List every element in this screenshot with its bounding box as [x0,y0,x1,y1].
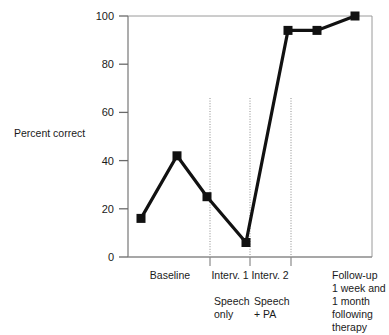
data-point-1 [137,214,146,223]
phase-dividers [210,98,291,256]
data-point-6 [313,26,322,35]
y-tick-label-20: 20 [102,203,114,215]
followup-sub-line1: 1 week and [332,282,386,294]
y-tick-label-0: 0 [108,251,114,263]
followup-sub-line2: 1 month [332,295,370,307]
interv1-sub-line1: Speech [214,295,250,307]
interv2-sub-line1: Speech [254,295,290,307]
data-point-7 [351,12,360,21]
y-axis-ticks [119,16,128,257]
phase-label-followup: Follow-up [332,269,378,281]
data-point-markers [137,12,360,248]
x-axis-ticks [210,257,291,266]
data-line [141,16,355,243]
y-tick-label-60: 60 [102,106,114,118]
y-tick-label-40: 40 [102,155,114,167]
y-axis-title: Percent correct [14,127,85,139]
followup-sub-line4: therapy [332,321,368,333]
data-point-2 [173,151,182,160]
phase-label-interv2: Interv. 2 [251,269,288,281]
line-chart-svg: 100 80 60 40 20 0 Percent correct [0,0,389,335]
followup-sub-line3: following [332,308,373,320]
y-tick-label-80: 80 [102,58,114,70]
y-tick-label-100: 100 [96,10,114,22]
data-point-5 [284,26,293,35]
interv1-sub-line2: only [214,308,234,320]
phase-label-baseline: Baseline [150,269,190,281]
phase-label-interv1: Interv. 1 [211,269,248,281]
data-point-4 [242,238,251,247]
data-point-3 [203,192,212,201]
chart-figure: 100 80 60 40 20 0 Percent correct [0,0,389,335]
interv2-sub-line2: + PA [254,308,276,320]
